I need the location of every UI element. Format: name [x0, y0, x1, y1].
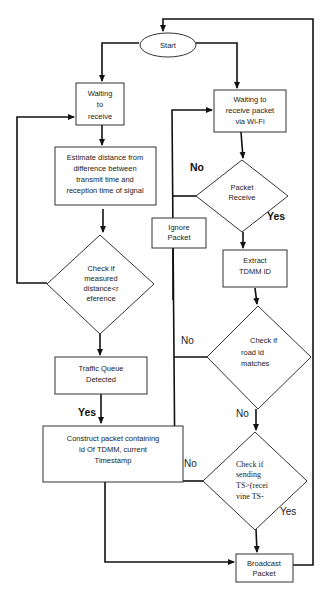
waiting-receive-line-3: receive: [88, 112, 112, 121]
check-road-line-2: road id: [241, 348, 264, 357]
packet-receive-line-1: Packet: [231, 183, 255, 192]
edge-construct-to-broadcast: [105, 482, 234, 562]
traffic-queue-line-1: Traffic Queue: [78, 364, 123, 373]
label-no-road-down: No: [236, 408, 249, 419]
node-start: Start: [140, 33, 196, 57]
edge-start-to-waiting-receive: [102, 43, 139, 81]
node-waiting-receive: Waiting to receive: [76, 83, 124, 125]
construct-line-3: Timestamp: [95, 456, 132, 465]
estimate-line-4: reception time of signal: [66, 186, 143, 195]
node-traffic-queue: Traffic Queue Detected: [55, 357, 147, 394]
flowchart: Start Waiting to receive Estimate distan…: [0, 0, 328, 594]
estimate-line-2: difference between: [73, 164, 136, 173]
extract-line-1: Extract: [243, 256, 267, 265]
edge-check-sending-to-broadcast: [256, 529, 257, 552]
check-road-line-3: matches: [241, 359, 270, 368]
check-sending-line-3: TS>(recei: [236, 481, 269, 490]
label-yes-sending: Yes: [280, 506, 296, 517]
check-sending-line-2: sending: [236, 470, 261, 479]
ignore-packet-line-1: Ignore: [168, 223, 189, 232]
check-distance-line-4: eference: [86, 294, 115, 303]
edge-extract-to-check-road: [255, 288, 257, 304]
label-no-packet: No: [190, 161, 204, 173]
node-check-road: Check if road id matches: [207, 306, 311, 409]
label-no-road-left: No: [181, 335, 194, 346]
node-check-distance: Check if measured distance<r eference: [47, 235, 154, 334]
waiting-receive-line-2: to: [97, 100, 103, 109]
ignore-packet-line-2: Packet: [168, 233, 192, 242]
construct-line-2: id Of TDMM, current: [79, 445, 148, 454]
node-estimate: Estimate distance from difference betwee…: [55, 147, 156, 205]
node-ignore-packet: Ignore Packet: [152, 218, 206, 248]
broadcast-line-2: Packet: [253, 569, 277, 578]
start-label: Start: [160, 41, 177, 50]
check-distance-line-2: measured: [84, 274, 117, 283]
node-broadcast: Broadcast Packet: [236, 554, 293, 582]
waiting-packet-line-3: via Wi-Fi: [235, 117, 264, 126]
waiting-packet-line-2: receive packet: [226, 106, 275, 115]
check-sending-line-1: Check if: [236, 460, 264, 469]
edge-waiting-packet-to-packet-receive: [241, 132, 243, 158]
label-no-sending: No: [184, 458, 197, 469]
label-yes-packet: Yes: [267, 210, 285, 222]
node-extract: Extract TDMM ID: [223, 250, 287, 287]
check-sending-line-4: vine TS-: [236, 492, 264, 501]
construct-line-1: Construct packet containing: [67, 434, 160, 443]
node-waiting-packet: Waiting to receive packet via Wi-Fi: [214, 90, 286, 132]
estimate-line-3: transmit time and: [76, 175, 134, 184]
estimate-line-1: Estimate distance from: [67, 153, 143, 162]
waiting-receive-line-1: Waiting: [88, 89, 113, 98]
node-construct: Construct packet containing id Of TDMM, …: [43, 426, 183, 482]
check-distance-line-1: Check if: [87, 264, 115, 273]
check-road-line-1: Check if: [250, 336, 278, 345]
extract-line-2: TDMM ID: [239, 267, 272, 276]
traffic-queue-line-2: Detected: [86, 375, 116, 384]
check-distance-line-3: distance<r: [84, 284, 119, 293]
waiting-packet-line-1: Waiting to: [233, 95, 266, 104]
packet-receive-line-2: Receive: [228, 193, 255, 202]
label-yes-traffic: Yes: [78, 406, 96, 418]
broadcast-line-1: Broadcast: [247, 559, 282, 568]
edge-start-to-waiting-packet: [196, 43, 237, 88]
